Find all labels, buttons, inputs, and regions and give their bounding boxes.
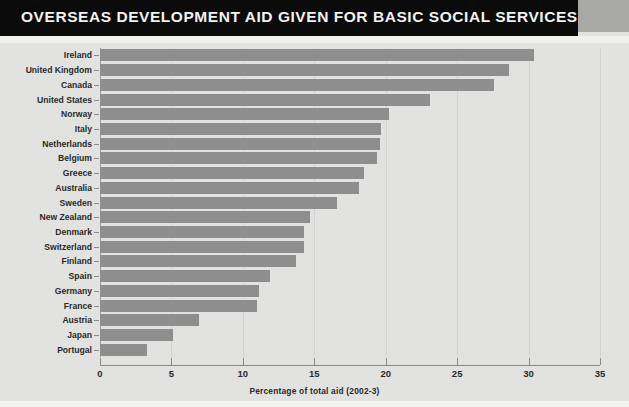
bar-row <box>100 152 377 164</box>
category-tick <box>94 261 99 262</box>
bar <box>100 285 259 297</box>
bar <box>100 241 304 253</box>
category-tick <box>94 320 99 321</box>
x-axis-tick-label: 25 <box>437 368 477 379</box>
bar <box>100 79 494 91</box>
banner-underline <box>0 36 629 43</box>
x-axis-tick-label: 10 <box>223 368 263 379</box>
title-banner: OVERSEAS DEVELOPMENT AID GIVEN FOR BASIC… <box>0 0 578 36</box>
bar <box>100 270 270 282</box>
bar <box>100 138 380 150</box>
category-label: Norway <box>0 109 92 119</box>
bar-row <box>100 182 359 194</box>
bar <box>100 49 534 61</box>
x-axis-tick <box>600 358 601 365</box>
bar <box>100 344 147 356</box>
category-tick <box>94 276 99 277</box>
category-tick <box>94 188 99 189</box>
bar <box>100 182 359 194</box>
bar <box>100 197 337 209</box>
bar <box>100 123 381 135</box>
category-tick <box>94 70 99 71</box>
category-tick <box>94 335 99 336</box>
title-corner-block <box>578 0 629 32</box>
bar <box>100 64 509 76</box>
bar-row <box>100 79 494 91</box>
x-axis-tick <box>243 358 244 365</box>
category-label: Italy <box>0 124 92 134</box>
category-tick <box>94 232 99 233</box>
category-tick <box>94 114 99 115</box>
bar-row <box>100 314 199 326</box>
category-tick <box>94 55 99 56</box>
x-axis-tick <box>171 358 172 365</box>
category-label: Spain <box>0 271 92 281</box>
category-tick <box>94 306 99 307</box>
x-axis-tick <box>386 358 387 365</box>
gridline <box>600 48 601 357</box>
bar-row <box>100 108 389 120</box>
bar-row <box>100 211 310 223</box>
category-label: United States <box>0 95 92 105</box>
category-tick <box>94 173 99 174</box>
x-axis-tick <box>314 358 315 365</box>
category-tick <box>94 247 99 248</box>
bar-row <box>100 241 304 253</box>
bar-row <box>100 49 534 61</box>
footer-strip <box>0 401 629 407</box>
category-label: Austria <box>0 315 92 325</box>
category-label: Canada <box>0 80 92 90</box>
category-label: Belgium <box>0 153 92 163</box>
category-label: Japan <box>0 330 92 340</box>
category-label: Switzerland <box>0 242 92 252</box>
category-label: Denmark <box>0 227 92 237</box>
chart-title: OVERSEAS DEVELOPMENT AID GIVEN FOR BASIC… <box>21 8 578 26</box>
category-tick <box>94 158 99 159</box>
bar <box>100 167 364 179</box>
category-label: United Kingdom <box>0 65 92 75</box>
bar <box>100 108 389 120</box>
x-axis-tick <box>529 358 530 365</box>
gridline <box>529 48 530 357</box>
x-axis-tick-label: 35 <box>580 368 620 379</box>
bar-row <box>100 300 257 312</box>
category-label: Finland <box>0 256 92 266</box>
gridline <box>457 48 458 357</box>
bar-row <box>100 123 381 135</box>
category-tick <box>94 291 99 292</box>
bar-row <box>100 329 173 341</box>
category-tick <box>94 85 99 86</box>
x-axis-title: Percentage of total aid (2002-3) <box>0 386 629 396</box>
category-tick <box>94 144 99 145</box>
category-tick <box>94 217 99 218</box>
x-axis-tick-label: 20 <box>366 368 406 379</box>
category-label: Greece <box>0 168 92 178</box>
category-label: Australia <box>0 183 92 193</box>
x-axis-tick <box>457 358 458 365</box>
bar <box>100 314 199 326</box>
bar <box>100 226 304 238</box>
bar-row <box>100 167 364 179</box>
category-tick <box>94 203 99 204</box>
bar <box>100 152 377 164</box>
bar-row <box>100 94 430 106</box>
bar-row <box>100 285 259 297</box>
x-axis-tick <box>100 358 101 365</box>
category-tick <box>94 129 99 130</box>
category-tick <box>94 350 99 351</box>
category-label: New Zealand <box>0 212 92 222</box>
category-label: Ireland <box>0 50 92 60</box>
category-label: Germany <box>0 286 92 296</box>
bar <box>100 329 173 341</box>
x-axis-tick-label: 5 <box>151 368 191 379</box>
category-label: France <box>0 301 92 311</box>
x-axis-tick-label: 30 <box>509 368 549 379</box>
category-label: Netherlands <box>0 139 92 149</box>
x-axis-tick-label: 15 <box>294 368 334 379</box>
category-label: Portugal <box>0 345 92 355</box>
x-axis-tick-label: 0 <box>80 368 120 379</box>
bar-row <box>100 197 337 209</box>
bar-row <box>100 226 304 238</box>
bar <box>100 300 257 312</box>
category-label: Sweden <box>0 198 92 208</box>
